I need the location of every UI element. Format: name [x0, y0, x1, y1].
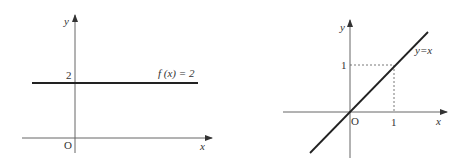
x-axis-label: x [435, 115, 441, 127]
chart-identity-function: y 1 1 y=x O x [283, 20, 447, 158]
y-tick-label-1: 1 [341, 59, 347, 71]
y-axis-label: y [339, 21, 345, 33]
function-line-identity [310, 32, 428, 153]
x-tick-label-1: 1 [391, 116, 397, 128]
y-axis-label: y [63, 15, 69, 27]
origin-label: O [64, 139, 72, 151]
y-tick-label-2: 2 [66, 69, 72, 81]
chart-constant-function: y 2 f (x) = 2 O x [22, 15, 212, 153]
function-label: f (x) = 2 [158, 67, 195, 80]
function-label: y=x [414, 44, 432, 56]
x-axis-label: x [199, 140, 205, 152]
origin-label: O [351, 115, 359, 127]
figure: y 2 f (x) = 2 O x y 1 1 y=x O x [0, 0, 471, 166]
